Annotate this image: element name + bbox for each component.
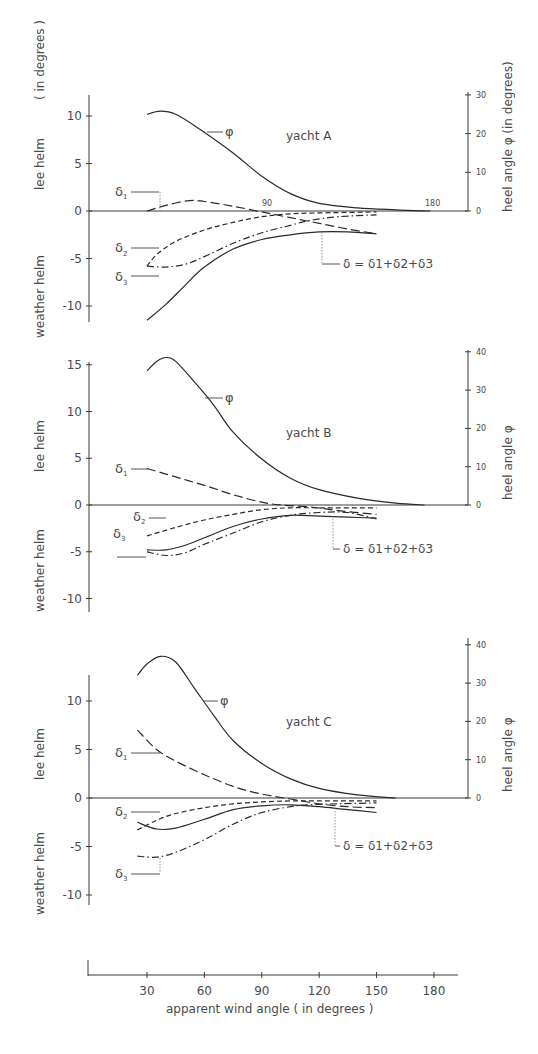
x-tick-label: 180 bbox=[422, 984, 445, 998]
x-axis: 306090120150180 apparent wind angle ( in… bbox=[88, 960, 458, 1016]
delta-sum-label-c: δ = δ1+δ2+δ3 bbox=[335, 808, 433, 853]
left-tick-label: 10 bbox=[67, 405, 82, 419]
left-tick-label: 0 bbox=[74, 791, 82, 805]
phi-label-c: φ bbox=[220, 693, 229, 708]
delta-sum-label-b: δ = δ1+δ2+δ3 bbox=[333, 516, 433, 556]
phi-label-b: φ bbox=[225, 390, 234, 405]
svg-text:1: 1 bbox=[123, 470, 127, 478]
curve-1 bbox=[137, 730, 376, 808]
delta2-label-c: δ2 bbox=[115, 804, 160, 821]
svg-text:δ = δ1+δ2+δ3: δ = δ1+δ2+δ3 bbox=[343, 257, 433, 271]
delta2-label-a: δ2 bbox=[115, 240, 159, 258]
x-tick-label: 60 bbox=[197, 984, 212, 998]
panel-yacht-b: 151050-5-10010203040 yacht B φ δ1 δ2 δ3 … bbox=[33, 348, 515, 612]
lee-helm-label-a: lee helm bbox=[33, 138, 47, 190]
svg-text:1: 1 bbox=[123, 193, 127, 201]
svg-text:2: 2 bbox=[141, 518, 145, 526]
x-tick-label: 120 bbox=[308, 984, 331, 998]
left-tick-label: -5 bbox=[70, 545, 82, 559]
right-tick-label: 20 bbox=[476, 130, 486, 139]
curve-123 bbox=[137, 805, 376, 830]
heel-angle-label-c: heel angle φ bbox=[501, 717, 515, 792]
right-tick-label: 0 bbox=[476, 794, 481, 803]
left-tick-label: 5 bbox=[74, 157, 82, 171]
panel-title-c: yacht C bbox=[286, 715, 332, 729]
weather-helm-label-a: weather helm bbox=[33, 255, 47, 338]
svg-text:δ: δ bbox=[115, 184, 123, 199]
right-tick-label: 30 bbox=[476, 679, 486, 688]
left-tick-label: -10 bbox=[62, 888, 82, 902]
panel-title-b: yacht B bbox=[286, 426, 331, 440]
right-tick-label: 30 bbox=[476, 386, 486, 395]
curves-c bbox=[137, 656, 395, 857]
curves-b bbox=[147, 357, 424, 555]
left-tick-label: -10 bbox=[62, 299, 82, 313]
left-tick-label: -5 bbox=[70, 840, 82, 854]
right-tick-label: 10 bbox=[476, 463, 486, 472]
svg-text:δ = δ1+δ2+δ3: δ = δ1+δ2+δ3 bbox=[343, 839, 433, 853]
svg-text:δ: δ bbox=[115, 269, 123, 284]
curve-3 bbox=[137, 803, 376, 857]
heel-angle-label-b: heel angle φ bbox=[501, 425, 515, 500]
left-tick-label: -5 bbox=[70, 252, 82, 266]
right-tick-label: 10 bbox=[476, 168, 486, 177]
right-tick-label: 20 bbox=[476, 717, 486, 726]
right-tick-label: 0 bbox=[476, 501, 481, 510]
delta2-label-b: δ2 bbox=[133, 509, 166, 526]
svg-text:2: 2 bbox=[123, 813, 127, 821]
left-tick-label: 10 bbox=[67, 109, 82, 123]
panel-yacht-a: 1050-5-100102030 yacht A 90 180 φ δ1 δ2 … bbox=[33, 20, 515, 338]
delta1-label-c: δ1 bbox=[115, 745, 160, 762]
left-tick-label: 0 bbox=[74, 498, 82, 512]
svg-text:2: 2 bbox=[123, 250, 127, 258]
right-tick-label: 10 bbox=[476, 756, 486, 765]
left-unit-label-a: ( in degrees ) bbox=[33, 20, 47, 100]
svg-text:δ: δ bbox=[115, 745, 123, 760]
panel-title-a: yacht A bbox=[286, 129, 332, 143]
svg-text:δ: δ bbox=[133, 509, 141, 524]
curve-1 bbox=[147, 469, 377, 515]
curve-123 bbox=[147, 232, 377, 321]
x-tick-label: 90 bbox=[254, 984, 269, 998]
weather-helm-label-c: weather helm bbox=[33, 832, 47, 915]
svg-text:δ: δ bbox=[113, 526, 121, 541]
svg-text:3: 3 bbox=[121, 535, 125, 543]
lee-helm-label-c: lee helm bbox=[33, 728, 47, 780]
delta3-label-a: δ3 bbox=[115, 269, 159, 287]
x-tick-label: 150 bbox=[365, 984, 388, 998]
svg-text:δ: δ bbox=[115, 461, 123, 476]
left-tick-label: -10 bbox=[62, 592, 82, 606]
left-tick-label: 15 bbox=[67, 358, 82, 372]
delta3-label-b: δ3 bbox=[113, 526, 146, 557]
delta1-label-a: δ1 bbox=[115, 184, 160, 211]
svg-text:3: 3 bbox=[123, 279, 127, 287]
left-tick-label: 5 bbox=[74, 743, 82, 757]
svg-text:δ: δ bbox=[115, 240, 123, 255]
panel-yacht-c: 1050-5-10010203040 yacht C φ δ1 δ2 δ3 δ … bbox=[33, 638, 515, 915]
delta1-label-b: δ1 bbox=[115, 461, 148, 478]
inline-tick-180: 180 bbox=[425, 199, 440, 208]
curve-2 bbox=[137, 801, 376, 830]
x-axis-label: apparent wind angle ( in degrees ) bbox=[166, 1002, 373, 1016]
svg-text:1: 1 bbox=[123, 754, 127, 762]
helm-heel-figure: 1050-5-100102030 yacht A 90 180 φ δ1 δ2 … bbox=[0, 0, 538, 1054]
right-tick-label: 0 bbox=[476, 207, 481, 216]
delta-sum-label-a: δ = δ1+δ2+δ3 bbox=[322, 232, 433, 271]
right-tick-label: 20 bbox=[476, 424, 486, 433]
right-tick-label: 40 bbox=[476, 348, 486, 357]
weather-helm-label-b: weather helm bbox=[33, 529, 47, 612]
left-tick-label: 10 bbox=[67, 694, 82, 708]
curve- bbox=[137, 656, 395, 798]
phi-label-a: φ bbox=[225, 124, 234, 139]
delta3-label-c: δ3 bbox=[115, 858, 160, 883]
lee-helm-label-b: lee helm bbox=[33, 420, 47, 472]
curve- bbox=[147, 111, 430, 211]
right-tick-label: 30 bbox=[476, 91, 486, 100]
heel-angle-label-a: heel angle φ (in degrees) bbox=[501, 61, 515, 212]
left-tick-label: 0 bbox=[74, 204, 82, 218]
left-tick-label: 5 bbox=[74, 451, 82, 465]
svg-text:δ: δ bbox=[115, 804, 123, 819]
svg-text:δ = δ1+δ2+δ3: δ = δ1+δ2+δ3 bbox=[343, 542, 433, 556]
x-tick-label: 30 bbox=[139, 984, 154, 998]
svg-text:3: 3 bbox=[123, 875, 127, 883]
